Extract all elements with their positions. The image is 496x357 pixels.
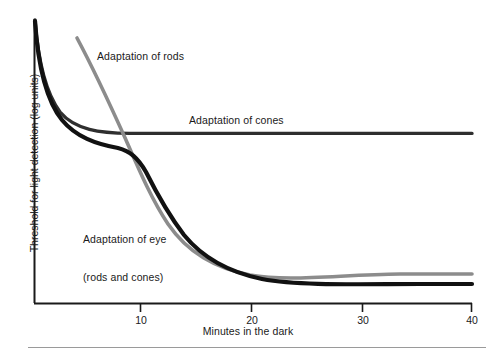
annotation-adaptation-of-cones: Adaptation of cones (189, 114, 284, 127)
annotation-adaptation-of-eye: Adaptation of eye (rods and cones) (83, 208, 166, 308)
chart-plot-area (0, 0, 496, 357)
annotation-eye-line-1: Adaptation of eye (83, 233, 166, 246)
x-axis-title: Minutes in the dark (0, 325, 496, 338)
footer-divider (28, 347, 486, 348)
y-axis-title: Threshold for light detection (log units… (28, 33, 40, 293)
annotation-adaptation-of-rods: Adaptation of rods (97, 50, 184, 63)
dark-adaptation-chart: 10 20 30 40 Adaptation of rods Adaptatio… (0, 0, 496, 357)
annotation-eye-line-2: (rods and cones) (83, 271, 166, 284)
